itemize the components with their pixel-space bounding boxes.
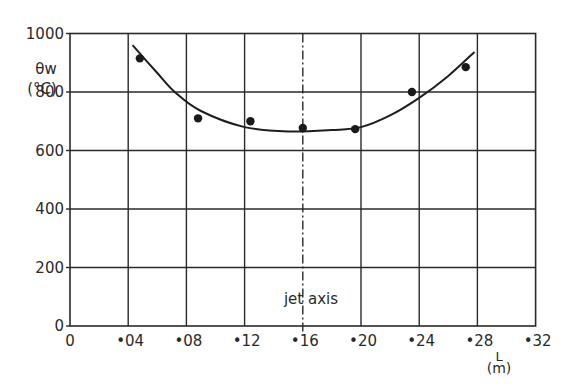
y-axis-symbol: θw [35, 60, 56, 78]
x-tick-label: •24 [407, 332, 435, 350]
x-tick-label: •16 [291, 332, 319, 350]
data-point [194, 114, 202, 122]
x-tick-label: •32 [524, 332, 552, 350]
y-tick-label: 0 [54, 317, 64, 335]
x-tick-label: •08 [174, 332, 202, 350]
x-tick-label: •12 [233, 332, 261, 350]
y-axis-unit: (°C) [27, 80, 57, 98]
plot-frame [70, 34, 536, 327]
jet-axis-label: jet axis [283, 290, 338, 308]
x-axis-unit: (m) [487, 360, 512, 376]
data-point [351, 125, 359, 133]
y-tick-label: 1000 [26, 25, 64, 43]
y-tick-label: 200 [35, 259, 64, 277]
fitted-curve [133, 45, 475, 131]
data-point [299, 124, 307, 132]
x-tick-label: •04 [116, 332, 144, 350]
x-tick-label: •28 [465, 332, 493, 350]
data-point [408, 88, 416, 96]
y-tick-label: 600 [35, 142, 64, 160]
data-point [136, 54, 144, 62]
x-tick-label: 0 [65, 332, 75, 350]
data-point [246, 117, 254, 125]
data-point [462, 63, 470, 71]
grid [66, 34, 536, 327]
y-tick-label: 400 [35, 200, 64, 218]
chart-canvas: 0•04•08•12•16•20•24•28•32 02004006008001… [0, 0, 572, 390]
x-tick-label: •20 [349, 332, 377, 350]
x-axis-ticks: 0•04•08•12•16•20•24•28•32 [65, 332, 551, 350]
